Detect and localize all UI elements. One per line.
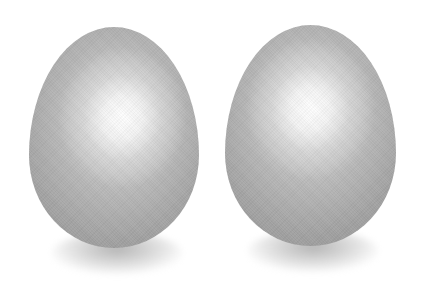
left-egg-texture <box>29 27 199 248</box>
right-egg-texture <box>225 25 396 246</box>
egg-image <box>0 0 422 285</box>
right-egg <box>225 25 396 246</box>
left-egg <box>29 27 199 248</box>
